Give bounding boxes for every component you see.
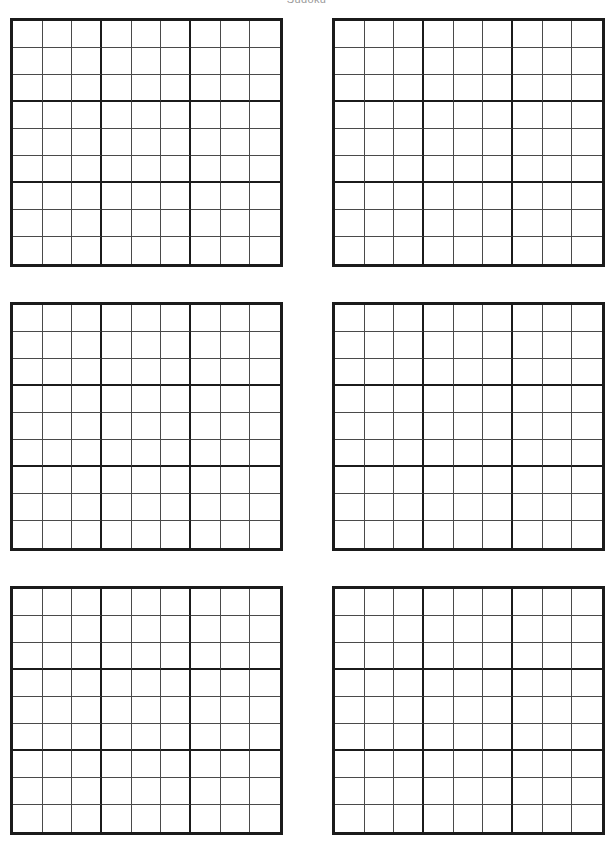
sudoku-cell[interactable] — [191, 305, 221, 332]
sudoku-cell[interactable] — [72, 751, 102, 778]
sudoku-cell[interactable] — [161, 210, 191, 237]
sudoku-cell[interactable] — [221, 237, 251, 264]
sudoku-cell[interactable] — [191, 237, 221, 264]
sudoku-cell[interactable] — [335, 21, 365, 48]
sudoku-cell[interactable] — [221, 778, 251, 805]
sudoku-cell[interactable] — [72, 467, 102, 494]
sudoku-cell[interactable] — [454, 386, 484, 413]
sudoku-cell[interactable] — [543, 805, 573, 832]
sudoku-cell[interactable] — [161, 102, 191, 129]
sudoku-cell[interactable] — [161, 778, 191, 805]
sudoku-cell[interactable] — [221, 413, 251, 440]
sudoku-cell[interactable] — [483, 440, 513, 467]
sudoku-cell[interactable] — [483, 21, 513, 48]
sudoku-cell[interactable] — [72, 805, 102, 832]
sudoku-cell[interactable] — [454, 48, 484, 75]
sudoku-cell[interactable] — [13, 778, 43, 805]
sudoku-cell[interactable] — [513, 129, 543, 156]
sudoku-cell[interactable] — [424, 48, 454, 75]
sudoku-cell[interactable] — [132, 305, 162, 332]
sudoku-cell[interactable] — [72, 643, 102, 670]
sudoku-cell[interactable] — [483, 521, 513, 548]
sudoku-cell[interactable] — [335, 48, 365, 75]
sudoku-cell[interactable] — [250, 48, 280, 75]
sudoku-cell[interactable] — [572, 386, 602, 413]
sudoku-cell[interactable] — [365, 129, 395, 156]
sudoku-cell[interactable] — [132, 102, 162, 129]
sudoku-cell[interactable] — [250, 778, 280, 805]
sudoku-cell[interactable] — [483, 589, 513, 616]
sudoku-cell[interactable] — [221, 129, 251, 156]
sudoku-grid-puzzle-2[interactable] — [332, 18, 605, 267]
sudoku-cell[interactable] — [572, 697, 602, 724]
sudoku-cell[interactable] — [365, 778, 395, 805]
sudoku-cell[interactable] — [191, 183, 221, 210]
sudoku-cell[interactable] — [394, 697, 424, 724]
sudoku-cell[interactable] — [43, 183, 73, 210]
sudoku-cell[interactable] — [43, 467, 73, 494]
sudoku-cell[interactable] — [250, 183, 280, 210]
sudoku-cell[interactable] — [191, 643, 221, 670]
sudoku-cell[interactable] — [191, 724, 221, 751]
sudoku-cell[interactable] — [13, 589, 43, 616]
sudoku-cell[interactable] — [572, 467, 602, 494]
sudoku-cell[interactable] — [250, 237, 280, 264]
sudoku-cell[interactable] — [454, 210, 484, 237]
sudoku-cell[interactable] — [191, 48, 221, 75]
sudoku-cell[interactable] — [513, 616, 543, 643]
sudoku-cell[interactable] — [102, 237, 132, 264]
sudoku-cell[interactable] — [221, 643, 251, 670]
sudoku-cell[interactable] — [43, 440, 73, 467]
sudoku-cell[interactable] — [161, 670, 191, 697]
sudoku-cell[interactable] — [13, 521, 43, 548]
sudoku-cell[interactable] — [454, 156, 484, 183]
sudoku-cell[interactable] — [335, 359, 365, 386]
sudoku-cell[interactable] — [250, 494, 280, 521]
sudoku-cell[interactable] — [132, 48, 162, 75]
sudoku-cell[interactable] — [394, 75, 424, 102]
sudoku-cell[interactable] — [483, 616, 513, 643]
sudoku-cell[interactable] — [513, 183, 543, 210]
sudoku-cell[interactable] — [13, 305, 43, 332]
sudoku-cell[interactable] — [513, 210, 543, 237]
sudoku-cell[interactable] — [424, 75, 454, 102]
sudoku-cell[interactable] — [250, 75, 280, 102]
sudoku-cell[interactable] — [13, 413, 43, 440]
sudoku-cell[interactable] — [483, 494, 513, 521]
sudoku-cell[interactable] — [72, 305, 102, 332]
sudoku-cell[interactable] — [72, 102, 102, 129]
sudoku-cell[interactable] — [250, 156, 280, 183]
sudoku-cell[interactable] — [543, 440, 573, 467]
sudoku-cell[interactable] — [394, 156, 424, 183]
sudoku-cell[interactable] — [132, 805, 162, 832]
sudoku-cell[interactable] — [572, 616, 602, 643]
sudoku-cell[interactable] — [454, 75, 484, 102]
sudoku-cell[interactable] — [72, 48, 102, 75]
sudoku-cell[interactable] — [513, 494, 543, 521]
sudoku-cell[interactable] — [72, 521, 102, 548]
sudoku-cell[interactable] — [483, 413, 513, 440]
sudoku-cell[interactable] — [250, 102, 280, 129]
sudoku-cell[interactable] — [191, 359, 221, 386]
sudoku-cell[interactable] — [454, 494, 484, 521]
sudoku-cell[interactable] — [250, 386, 280, 413]
sudoku-cell[interactable] — [43, 778, 73, 805]
sudoku-cell[interactable] — [483, 697, 513, 724]
sudoku-cell[interactable] — [335, 413, 365, 440]
sudoku-cell[interactable] — [102, 616, 132, 643]
sudoku-cell[interactable] — [250, 332, 280, 359]
sudoku-cell[interactable] — [483, 210, 513, 237]
sudoku-cell[interactable] — [221, 697, 251, 724]
sudoku-cell[interactable] — [132, 21, 162, 48]
sudoku-cell[interactable] — [335, 386, 365, 413]
sudoku-cell[interactable] — [572, 440, 602, 467]
sudoku-cell[interactable] — [513, 21, 543, 48]
sudoku-cell[interactable] — [43, 616, 73, 643]
sudoku-cell[interactable] — [543, 386, 573, 413]
sudoku-cell[interactable] — [454, 237, 484, 264]
sudoku-cell[interactable] — [43, 305, 73, 332]
sudoku-cell[interactable] — [72, 332, 102, 359]
sudoku-cell[interactable] — [191, 494, 221, 521]
sudoku-cell[interactable] — [250, 805, 280, 832]
sudoku-cell[interactable] — [13, 670, 43, 697]
